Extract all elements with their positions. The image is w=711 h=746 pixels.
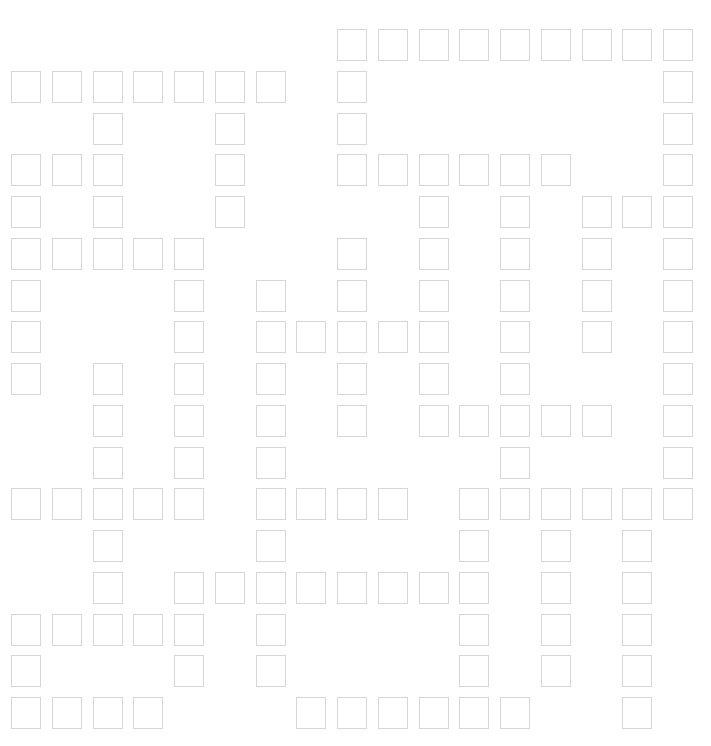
- crossword-cell-r9-c16[interactable]: [663, 405, 693, 437]
- crossword-cell-r7-c9[interactable]: [378, 321, 408, 353]
- crossword-cell-r6-c6[interactable]: [256, 280, 286, 312]
- crossword-cell-r6-c14[interactable]: [582, 280, 612, 312]
- crossword-cell-r11-c16[interactable]: [663, 488, 693, 520]
- crossword-cell-r0-c8[interactable]: [337, 29, 367, 61]
- crossword-cell-r11-c12[interactable]: [500, 488, 530, 520]
- crossword-cell-r4-c2[interactable]: [93, 196, 123, 228]
- crossword-cell-r7-c14[interactable]: [582, 321, 612, 353]
- crossword-cell-r6-c10[interactable]: [419, 280, 449, 312]
- crossword-cell-r4-c5[interactable]: [215, 196, 245, 228]
- crossword-cell-r9-c10[interactable]: [419, 405, 449, 437]
- crossword-cell-r1-c1[interactable]: [52, 71, 82, 103]
- crossword-cell-r16-c12[interactable]: [500, 697, 530, 729]
- crossword-cell-r6-c12[interactable]: [500, 280, 530, 312]
- crossword-cell-r2-c5[interactable]: [215, 113, 245, 145]
- crossword-cell-r8-c0[interactable]: [11, 363, 41, 395]
- crossword-cell-r14-c11[interactable]: [459, 614, 489, 646]
- crossword-cell-r0-c12[interactable]: [500, 29, 530, 61]
- crossword-cell-r16-c15[interactable]: [622, 697, 652, 729]
- crossword-cell-r8-c10[interactable]: [419, 363, 449, 395]
- crossword-cell-r11-c6[interactable]: [256, 488, 286, 520]
- crossword-cell-r14-c6[interactable]: [256, 614, 286, 646]
- crossword-cell-r9-c2[interactable]: [93, 405, 123, 437]
- crossword-cell-r4-c15[interactable]: [622, 196, 652, 228]
- crossword-cell-r9-c8[interactable]: [337, 405, 367, 437]
- crossword-cell-r5-c8[interactable]: [337, 238, 367, 270]
- crossword-cell-r14-c0[interactable]: [11, 614, 41, 646]
- crossword-cell-r1-c3[interactable]: [133, 71, 163, 103]
- crossword-cell-r10-c4[interactable]: [174, 447, 204, 479]
- crossword-cell-r14-c13[interactable]: [541, 614, 571, 646]
- crossword-cell-r11-c9[interactable]: [378, 488, 408, 520]
- crossword-cell-r6-c4[interactable]: [174, 280, 204, 312]
- crossword-cell-r8-c2[interactable]: [93, 363, 123, 395]
- crossword-cell-r0-c11[interactable]: [459, 29, 489, 61]
- crossword-cell-r3-c11[interactable]: [459, 154, 489, 186]
- crossword-cell-r4-c0[interactable]: [11, 196, 41, 228]
- crossword-cell-r9-c11[interactable]: [459, 405, 489, 437]
- crossword-cell-r3-c5[interactable]: [215, 154, 245, 186]
- crossword-cell-r10-c2[interactable]: [93, 447, 123, 479]
- crossword-cell-r5-c12[interactable]: [500, 238, 530, 270]
- crossword-cell-r7-c4[interactable]: [174, 321, 204, 353]
- crossword-cell-r14-c15[interactable]: [622, 614, 652, 646]
- crossword-cell-r13-c5[interactable]: [215, 572, 245, 604]
- crossword-cell-r8-c6[interactable]: [256, 363, 286, 395]
- crossword-cell-r7-c7[interactable]: [296, 321, 326, 353]
- crossword-cell-r16-c2[interactable]: [93, 697, 123, 729]
- crossword-cell-r2-c16[interactable]: [663, 113, 693, 145]
- crossword-cell-r12-c11[interactable]: [459, 530, 489, 562]
- crossword-cell-r11-c1[interactable]: [52, 488, 82, 520]
- crossword-cell-r10-c16[interactable]: [663, 447, 693, 479]
- crossword-cell-r0-c13[interactable]: [541, 29, 571, 61]
- crossword-cell-r1-c5[interactable]: [215, 71, 245, 103]
- crossword-cell-r12-c13[interactable]: [541, 530, 571, 562]
- crossword-cell-r8-c8[interactable]: [337, 363, 367, 395]
- crossword-cell-r9-c4[interactable]: [174, 405, 204, 437]
- crossword-cell-r11-c8[interactable]: [337, 488, 367, 520]
- crossword-cell-r12-c2[interactable]: [93, 530, 123, 562]
- crossword-cell-r7-c0[interactable]: [11, 321, 41, 353]
- crossword-cell-r3-c12[interactable]: [500, 154, 530, 186]
- crossword-cell-r10-c12[interactable]: [500, 447, 530, 479]
- crossword-cell-r11-c14[interactable]: [582, 488, 612, 520]
- crossword-cell-r2-c8[interactable]: [337, 113, 367, 145]
- crossword-cell-r13-c7[interactable]: [296, 572, 326, 604]
- crossword-cell-r16-c8[interactable]: [337, 697, 367, 729]
- crossword-cell-r8-c16[interactable]: [663, 363, 693, 395]
- crossword-cell-r3-c8[interactable]: [337, 154, 367, 186]
- crossword-cell-r13-c11[interactable]: [459, 572, 489, 604]
- crossword-cell-r5-c3[interactable]: [133, 238, 163, 270]
- crossword-cell-r0-c15[interactable]: [622, 29, 652, 61]
- crossword-cell-r16-c11[interactable]: [459, 697, 489, 729]
- crossword-cell-r1-c2[interactable]: [93, 71, 123, 103]
- crossword-cell-r5-c4[interactable]: [174, 238, 204, 270]
- crossword-cell-r15-c6[interactable]: [256, 655, 286, 687]
- crossword-cell-r4-c16[interactable]: [663, 196, 693, 228]
- crossword-cell-r6-c8[interactable]: [337, 280, 367, 312]
- crossword-cell-r3-c1[interactable]: [52, 154, 82, 186]
- crossword-cell-r7-c6[interactable]: [256, 321, 286, 353]
- crossword-cell-r3-c9[interactable]: [378, 154, 408, 186]
- crossword-cell-r13-c10[interactable]: [419, 572, 449, 604]
- crossword-cell-r11-c4[interactable]: [174, 488, 204, 520]
- crossword-cell-r7-c10[interactable]: [419, 321, 449, 353]
- crossword-cell-r7-c16[interactable]: [663, 321, 693, 353]
- crossword-cell-r13-c6[interactable]: [256, 572, 286, 604]
- crossword-cell-r13-c13[interactable]: [541, 572, 571, 604]
- crossword-cell-r12-c15[interactable]: [622, 530, 652, 562]
- crossword-cell-r7-c12[interactable]: [500, 321, 530, 353]
- crossword-cell-r15-c4[interactable]: [174, 655, 204, 687]
- crossword-cell-r13-c15[interactable]: [622, 572, 652, 604]
- crossword-cell-r16-c9[interactable]: [378, 697, 408, 729]
- crossword-cell-r1-c0[interactable]: [11, 71, 41, 103]
- crossword-cell-r3-c2[interactable]: [93, 154, 123, 186]
- crossword-cell-r8-c12[interactable]: [500, 363, 530, 395]
- crossword-cell-r11-c3[interactable]: [133, 488, 163, 520]
- crossword-cell-r1-c4[interactable]: [174, 71, 204, 103]
- crossword-cell-r16-c0[interactable]: [11, 697, 41, 729]
- crossword-cell-r11-c15[interactable]: [622, 488, 652, 520]
- crossword-cell-r11-c2[interactable]: [93, 488, 123, 520]
- crossword-cell-r15-c11[interactable]: [459, 655, 489, 687]
- crossword-cell-r5-c16[interactable]: [663, 238, 693, 270]
